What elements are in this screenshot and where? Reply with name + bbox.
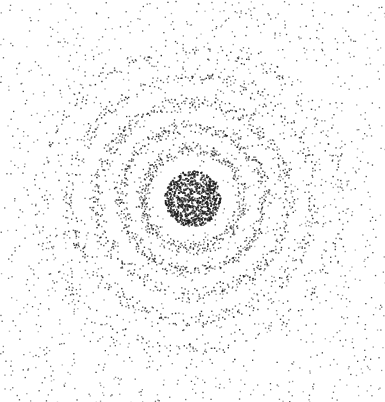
concentric-ring-dot-pattern bbox=[0, 0, 385, 402]
stipple-image bbox=[0, 0, 385, 402]
